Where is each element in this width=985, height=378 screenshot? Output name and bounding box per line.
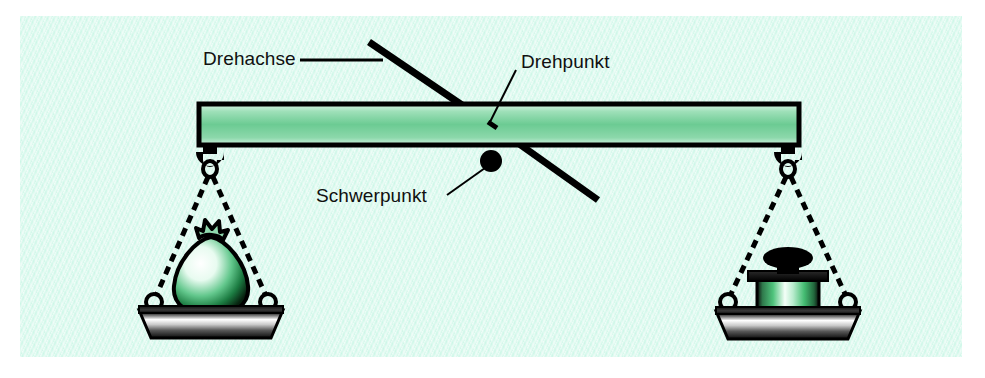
figure-background-panel [20, 16, 962, 357]
label-drehachse: Drehachse [203, 48, 296, 70]
label-drehpunkt: Drehpunkt [521, 51, 610, 73]
figure-canvas: Drehachse Drehpunkt Schwerpunkt [0, 0, 985, 378]
label-schwerpunkt: Schwerpunkt [316, 185, 427, 207]
